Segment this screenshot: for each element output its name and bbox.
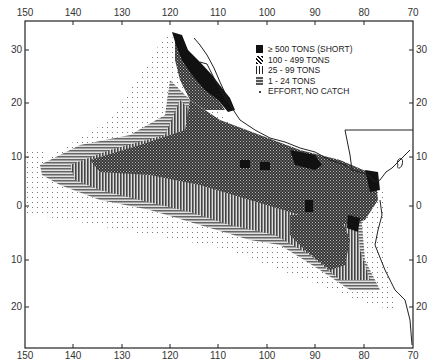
legend-label: 100 - 499 TONS (268, 55, 330, 66)
y-tick-label: 10 (416, 152, 427, 162)
crosshatch-square-icon (256, 56, 263, 64)
x-tick-label: 80 (358, 351, 369, 360)
x-tick-label: 130 (114, 351, 131, 360)
legend-label: EFFORT, NO CATCH (268, 86, 349, 97)
x-tick-label: 110 (210, 8, 226, 18)
legend-item-100-499: 100 - 499 TONS (256, 55, 353, 66)
x-tick-label: 120 (162, 8, 179, 18)
map-legend: ≥ 500 TONS (SHORT) 100 - 499 TONS 25 - 9… (256, 44, 353, 97)
legend-label: ≥ 500 TONS (SHORT) (268, 44, 353, 55)
y-tick-label: 0 (16, 201, 22, 211)
legend-label: 1 - 24 TONS (268, 76, 315, 87)
y-tick-label: 10 (11, 152, 22, 162)
y-tick-label: 10 (416, 255, 427, 265)
fishery-catch-map (0, 0, 438, 360)
x-tick-label: 90 (309, 8, 320, 18)
x-tick-label: 140 (65, 351, 82, 360)
legend-item-effort: EFFORT, NO CATCH (256, 86, 353, 97)
x-tick-label: 140 (65, 8, 82, 18)
x-tick-label: 80 (358, 8, 369, 18)
x-tick-label: 150 (17, 8, 34, 18)
y-tick-label: 20 (416, 302, 427, 312)
legend-label: 25 - 99 TONS (268, 65, 320, 76)
legend-item-500-plus: ≥ 500 TONS (SHORT) (256, 44, 353, 55)
x-tick-label: 130 (114, 8, 131, 18)
y-tick-label: 0 (416, 201, 422, 211)
vertical-lines-square-icon (256, 66, 263, 74)
y-tick-label: 10 (11, 255, 22, 265)
x-tick-label: 100 (259, 8, 276, 18)
y-tick-label: 20 (11, 302, 22, 312)
y-tick-label: 20 (416, 98, 427, 108)
x-tick-label: 150 (17, 351, 34, 360)
horizontal-lines-square-icon (256, 77, 263, 85)
y-tick-label: 30 (416, 45, 427, 55)
solid-square-icon (256, 45, 263, 53)
x-tick-label: 110 (210, 351, 226, 360)
dot-icon (256, 87, 263, 95)
legend-item-25-99: 25 - 99 TONS (256, 65, 353, 76)
y-tick-label: 20 (11, 98, 22, 108)
x-tick-label: 100 (259, 351, 276, 360)
legend-item-1-24: 1 - 24 TONS (256, 76, 353, 87)
x-tick-label: 70 (407, 351, 418, 360)
y-tick-label: 30 (11, 45, 22, 55)
x-tick-label: 90 (309, 351, 320, 360)
x-tick-label: 120 (162, 351, 179, 360)
x-tick-label: 70 (407, 8, 418, 18)
